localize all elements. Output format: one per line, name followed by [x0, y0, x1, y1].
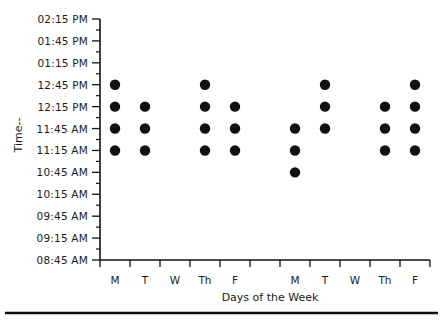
data-point: [200, 101, 210, 111]
x-tick-label: Th: [197, 274, 211, 286]
y-tick-label: 01:15 PM: [37, 57, 88, 69]
data-point: [410, 80, 420, 90]
data-point: [230, 145, 240, 155]
y-tick-label: 12:45 PM: [37, 79, 88, 91]
x-tick-label: M: [290, 274, 299, 286]
y-tick-label: 12:15 PM: [37, 101, 88, 113]
data-point: [290, 123, 300, 133]
data-point: [110, 145, 120, 155]
data-point: [410, 101, 420, 111]
data-point: [110, 80, 120, 90]
y-tick-label: 01:45 PM: [37, 35, 88, 47]
data-point: [320, 80, 330, 90]
data-point: [140, 101, 150, 111]
y-axis-title: Time--: [12, 118, 25, 154]
y-tick-label: 11:45 AM: [37, 123, 88, 135]
x-axis-title: Days of the Week: [222, 291, 319, 304]
x-tick-label: T: [321, 274, 329, 286]
x-tick-label: Th: [377, 274, 391, 286]
data-point: [290, 145, 300, 155]
data-point: [320, 101, 330, 111]
y-tick-label: 11:15 AM: [37, 144, 88, 156]
data-point: [410, 145, 420, 155]
x-tick-label: F: [412, 274, 418, 286]
y-tick-label: 02:15 PM: [37, 13, 88, 25]
data-points: [110, 80, 420, 178]
data-point: [110, 123, 120, 133]
y-tick-label: 09:45 AM: [37, 210, 88, 222]
y-axis: 02:15 PM01:45 PM01:15 PM12:45 PM12:15 PM…: [37, 13, 100, 266]
y-tick-label: 09:15 AM: [37, 232, 88, 244]
data-point: [140, 123, 150, 133]
data-point: [230, 101, 240, 111]
data-point: [380, 101, 390, 111]
data-point: [200, 80, 210, 90]
data-point: [110, 101, 120, 111]
x-tick-label: F: [232, 274, 238, 286]
x-tick-label: M: [110, 274, 119, 286]
data-point: [290, 167, 300, 177]
y-tick-label: 10:15 AM: [37, 188, 88, 200]
x-tick-label: T: [141, 274, 149, 286]
data-point: [140, 145, 150, 155]
data-point: [410, 123, 420, 133]
y-tick-label: 08:45 AM: [37, 254, 88, 266]
dot-plot-chart: 02:15 PM01:45 PM01:15 PM12:45 PM12:15 PM…: [0, 0, 446, 324]
data-point: [200, 123, 210, 133]
data-point: [200, 145, 210, 155]
data-point: [320, 123, 330, 133]
y-tick-label: 10:45 AM: [37, 166, 88, 178]
data-point: [380, 145, 390, 155]
data-point: [380, 123, 390, 133]
x-tick-label: W: [350, 274, 361, 286]
x-axis: MTWThFMTWThF: [100, 260, 430, 286]
data-point: [230, 123, 240, 133]
x-tick-label: W: [170, 274, 181, 286]
